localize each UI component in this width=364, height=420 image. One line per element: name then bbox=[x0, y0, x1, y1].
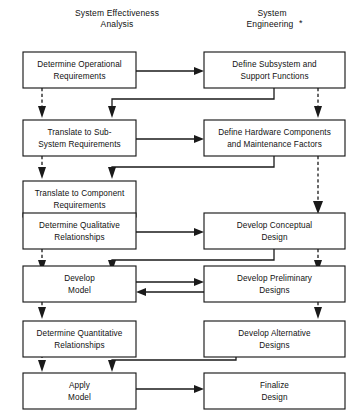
node-label-line2: Design bbox=[261, 393, 287, 402]
node-label-line1: Translate to Component bbox=[35, 189, 125, 198]
connector-n4-to-n5 bbox=[108, 156, 274, 179]
node-determine-qualitative-relationships[interactable]: Determine Qualitative Relationships bbox=[23, 213, 136, 249]
arrow-head-icon bbox=[108, 167, 116, 179]
node-label-line1: Translate to Sub- bbox=[47, 128, 111, 137]
node-label-line2: Designs bbox=[259, 286, 289, 295]
node-define-subsystem-and-support-functions[interactable]: Define Subsystem and Support Functions bbox=[204, 52, 345, 88]
connector-n1-to-n2 bbox=[136, 67, 204, 75]
node-label-line1: Determine Operational bbox=[37, 60, 122, 69]
node-translate-to-subsystem-requirements[interactable]: Translate to Sub- System Requirements bbox=[23, 120, 136, 156]
node-label-line2: Requirements bbox=[53, 72, 105, 81]
node-develop-conceptual-design[interactable]: Develop Conceptual Design bbox=[204, 213, 345, 249]
arrow-head-icon bbox=[194, 67, 204, 75]
node-develop-preliminary-designs[interactable]: Develop Preliminary Designs bbox=[204, 266, 345, 302]
arrow-head-icon bbox=[38, 307, 46, 319]
column-header-right-line2: Engineering bbox=[246, 19, 293, 29]
node-label-line2: System Requirements bbox=[38, 140, 120, 149]
node-label-line2: and Maintenance Factors bbox=[227, 140, 322, 149]
connector-n2-to-n3 bbox=[108, 88, 274, 118]
node-label-line1: Finalize bbox=[260, 381, 289, 390]
connector-n1-to-n3 bbox=[38, 88, 46, 118]
connector-n2-to-n4 bbox=[314, 88, 322, 118]
node-translate-to-component-requirements[interactable]: Translate to Component Requirements bbox=[23, 181, 136, 217]
node-label-line1: Apply bbox=[69, 381, 91, 390]
node-label-line1: Develop Alternative bbox=[238, 329, 311, 338]
node-label-line2: Requirements bbox=[53, 201, 105, 210]
flowchart-diagram: System Effectiveness Analysis System Eng… bbox=[0, 0, 364, 420]
node-define-hardware-components-and-maintenance-factors[interactable]: Define Hardware Components and Maintenan… bbox=[204, 120, 345, 156]
node-label-line2: Model bbox=[68, 393, 91, 402]
arrow-head-icon bbox=[313, 201, 323, 214]
connector-n4-to-n7 bbox=[313, 156, 323, 214]
connector-n12-to-n13 bbox=[136, 385, 204, 393]
arrow-head-icon bbox=[38, 106, 46, 118]
arrow-head-icon bbox=[194, 228, 204, 236]
column-header-left-line1: System Effectiveness bbox=[75, 8, 159, 18]
connector-n3-to-n5 bbox=[38, 156, 46, 179]
flowchart-canvas: System Effectiveness Analysis System Eng… bbox=[0, 0, 364, 420]
node-label-line1: Define Subsystem and bbox=[232, 60, 317, 69]
connector-n8-to-n10 bbox=[38, 302, 46, 319]
arrow-head-icon bbox=[314, 106, 322, 118]
connector-n9-to-n11 bbox=[314, 302, 322, 319]
node-label-line2: Model bbox=[68, 286, 91, 295]
node-apply-model[interactable]: Apply Model bbox=[23, 373, 136, 409]
arrow-head-icon bbox=[194, 278, 204, 286]
node-label-line1: Define Hardware Components bbox=[218, 128, 331, 137]
column-header-left-line2: Analysis bbox=[101, 19, 134, 29]
node-develop-alternative-designs[interactable]: Develop Alternative Designs bbox=[204, 321, 345, 357]
node-label-line1: Develop Conceptual bbox=[237, 221, 313, 230]
connector-n9-to-n8 bbox=[136, 288, 204, 296]
node-label-line1: Develop bbox=[64, 274, 95, 283]
node-label-line2: Design bbox=[261, 233, 287, 242]
connector-n6-to-n7 bbox=[136, 228, 204, 236]
node-label-line1: Determine Quantitative bbox=[37, 329, 123, 338]
node-label-line2: Designs bbox=[259, 341, 289, 350]
arrow-head-icon bbox=[314, 307, 322, 319]
node-determine-operational-requirements[interactable]: Determine Operational Requirements bbox=[23, 52, 136, 88]
column-header-left: System Effectiveness Analysis bbox=[75, 8, 159, 29]
arrow-head-icon bbox=[194, 135, 204, 143]
node-determine-quantitative-relationships[interactable]: Determine Quantitative Relationships bbox=[23, 321, 136, 357]
arrow-head-icon bbox=[194, 385, 204, 393]
column-header-right: System Engineering * bbox=[246, 8, 303, 29]
node-label-line2: Relationships bbox=[54, 341, 104, 350]
node-finalize-design[interactable]: Finalize Design bbox=[204, 373, 345, 409]
arrow-head-icon bbox=[108, 360, 116, 372]
node-develop-model[interactable]: Develop Model bbox=[23, 266, 136, 302]
node-label-line1: Determine Qualitative bbox=[39, 221, 120, 230]
node-label-line2: Support Functions bbox=[240, 72, 308, 81]
node-label-line1: Develop Preliminary bbox=[237, 274, 313, 283]
arrow-head-icon bbox=[38, 360, 46, 372]
arrow-head-icon bbox=[108, 106, 116, 118]
node-label-line2: Relationships bbox=[54, 233, 104, 242]
arrow-head-icon bbox=[136, 288, 146, 296]
connector-n8-to-n9 bbox=[136, 278, 204, 286]
arrow-head-icon bbox=[38, 167, 46, 179]
connector-n3-to-n4 bbox=[136, 135, 204, 143]
system-engineering-asterisk-icon: * bbox=[299, 18, 303, 28]
column-header-right-line1: System bbox=[257, 8, 286, 18]
